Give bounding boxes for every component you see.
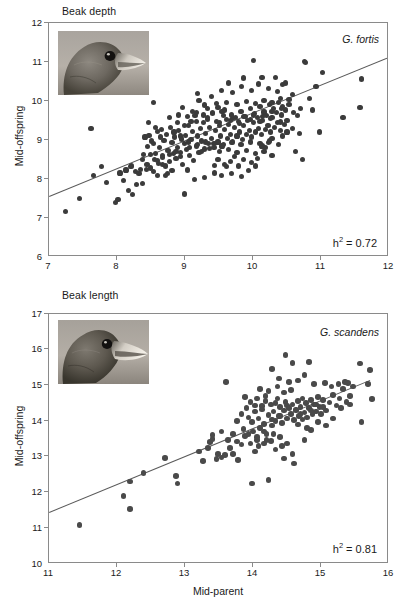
data-point [226, 80, 231, 85]
inset-photo-g-scandens [58, 320, 149, 384]
species-label-top: G. fortis [342, 33, 379, 45]
heritability-label-bottom: h2 = 0.81 [333, 541, 377, 555]
data-point [261, 98, 266, 103]
data-point [320, 70, 325, 75]
xtick-top-11: 11 [308, 260, 332, 271]
heritability-exp-top: 2 [339, 235, 343, 244]
data-point [223, 379, 229, 385]
xtick-top-10: 10 [240, 260, 264, 271]
data-point [251, 112, 256, 117]
data-point [273, 75, 278, 80]
data-point [241, 75, 246, 80]
data-point [288, 387, 294, 393]
data-point [228, 159, 233, 164]
data-point [284, 118, 289, 123]
data-point [140, 181, 145, 186]
data-point [276, 376, 282, 382]
data-point [290, 92, 295, 97]
heritability-value-bottom: = 0.81 [346, 543, 377, 555]
ytick-bottom-17: 17 [20, 308, 42, 319]
data-point [151, 141, 156, 146]
data-point [342, 379, 348, 385]
data-point [198, 126, 203, 131]
data-point [359, 76, 364, 81]
data-point [164, 132, 169, 137]
data-point [167, 152, 172, 157]
data-point [367, 367, 373, 373]
data-point [283, 80, 288, 85]
data-point [183, 133, 188, 138]
data-point [241, 157, 246, 162]
data-point [202, 175, 207, 180]
data-point [263, 393, 269, 399]
data-point [238, 142, 243, 147]
data-point [173, 473, 179, 479]
panel-beak-length: Beak length 17 16 15 14 13 12 11 10 Mid-… [0, 285, 401, 600]
data-point [265, 123, 270, 128]
data-point [235, 457, 241, 463]
data-point [315, 419, 321, 425]
data-point [284, 403, 290, 409]
data-point [222, 107, 227, 112]
species-label-bottom: G. scandens [320, 326, 379, 338]
data-point [160, 155, 165, 160]
data-point [205, 117, 210, 122]
data-point [322, 380, 328, 386]
ytick-bottom-11: 11 [20, 522, 42, 533]
data-point [272, 125, 277, 130]
data-point [173, 149, 178, 154]
data-point [225, 437, 231, 443]
data-point [180, 105, 185, 110]
data-point [249, 88, 254, 93]
data-point [247, 128, 252, 133]
data-point [217, 149, 222, 154]
yaxis-label-top: Mid-offspring [13, 91, 25, 181]
data-point [155, 158, 160, 163]
data-point [212, 170, 217, 175]
data-point [180, 162, 185, 167]
data-point [163, 173, 168, 178]
data-point [234, 102, 239, 107]
data-point [290, 451, 296, 457]
data-point [239, 84, 244, 89]
data-point [195, 91, 200, 96]
data-point [194, 119, 199, 124]
data-point [340, 386, 346, 392]
data-point [104, 180, 109, 185]
data-point [369, 396, 375, 402]
data-point [127, 479, 133, 485]
data-point [273, 447, 279, 453]
data-point [229, 140, 234, 145]
data-point [295, 378, 301, 384]
data-point [88, 126, 93, 131]
data-point [242, 394, 248, 400]
data-point [302, 372, 308, 378]
data-point [248, 139, 253, 144]
data-point [236, 163, 241, 168]
data-point [252, 409, 258, 415]
data-point [205, 445, 211, 451]
data-point [219, 88, 224, 93]
data-point [77, 196, 82, 201]
data-point [207, 146, 212, 151]
data-point [281, 390, 287, 396]
data-point [252, 403, 258, 409]
data-point [201, 112, 206, 117]
data-point [232, 154, 237, 159]
ytick-bottom-15: 15 [20, 379, 42, 390]
data-point [256, 81, 261, 86]
data-point [347, 402, 353, 408]
data-point [266, 477, 272, 483]
data-point [244, 148, 249, 153]
data-point [286, 102, 291, 107]
data-point [172, 134, 177, 139]
data-point [145, 144, 150, 149]
data-point [228, 132, 233, 137]
xtick-bottom-15: 15 [308, 567, 332, 578]
data-point [188, 119, 193, 124]
data-point [187, 145, 192, 150]
data-point [271, 431, 277, 437]
data-point [257, 141, 262, 146]
data-point [134, 182, 139, 187]
data-point [227, 445, 233, 451]
